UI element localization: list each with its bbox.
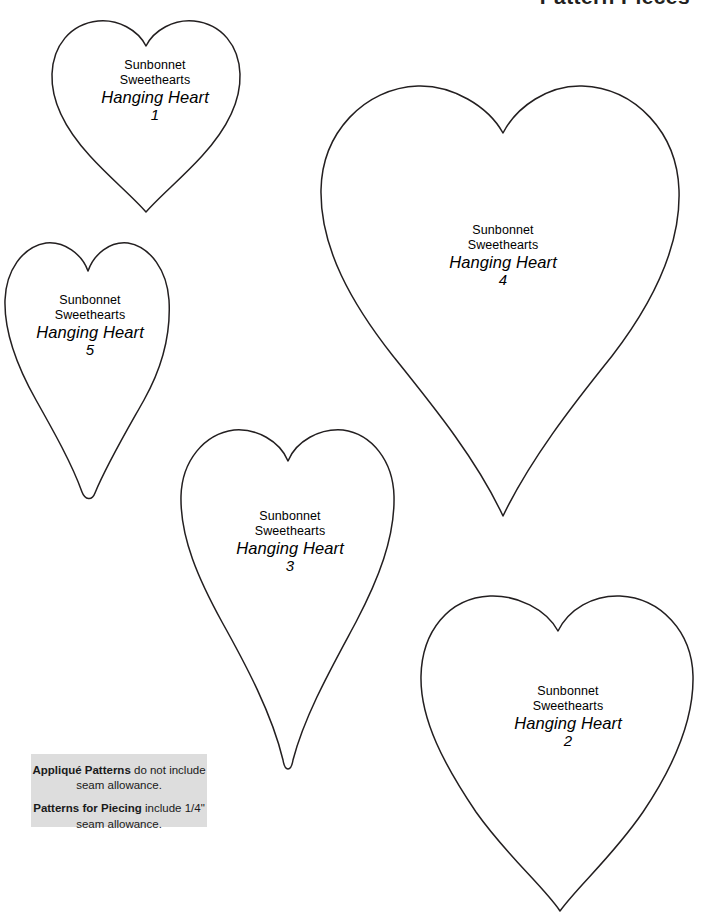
piece-brand-line-2: Sweethearts [236,524,344,539]
note-line-2-bold: Patterns for Piecing [33,802,142,814]
heart-outline-3 [181,430,394,769]
piece-name: Hanging Heart [101,88,209,107]
piece-brand-line-1: Sunbonnet [449,223,557,238]
piece-name: Hanging Heart [36,323,144,342]
heart-outline-4 [321,86,679,516]
piece-brand-line-1: Sunbonnet [236,509,344,524]
piece-brand-line-2: Sweethearts [449,238,557,253]
piece-label-5: Sunbonnet Sweethearts Hanging Heart 5 [36,293,144,358]
piece-brand-line-1: Sunbonnet [101,58,209,73]
piece-label-3: Sunbonnet Sweethearts Hanging Heart 3 [236,509,344,574]
piece-name: Hanging Heart [514,714,622,733]
pattern-sheet-page: Pattern Pieces Sunbonnet Sweethearts Han… [0,0,714,919]
piece-brand-line-1: Sunbonnet [514,684,622,699]
piece-brand-line-2: Sweethearts [101,73,209,88]
piece-label-1: Sunbonnet Sweethearts Hanging Heart 1 [101,58,209,123]
heart-outline-5 [5,243,169,499]
note-line-appliqué: Appliqué Patterns do not include seam al… [31,763,207,793]
piece-number: 5 [36,341,144,358]
piece-number: 2 [514,732,622,749]
piece-number: 4 [449,271,557,288]
piece-label-4: Sunbonnet Sweethearts Hanging Heart 4 [449,223,557,288]
note-line-1-bold: Appliqué Patterns [32,764,130,776]
note-line-piecing: Patterns for Piecing include 1/4" seam a… [31,801,207,831]
piece-brand-line-2: Sweethearts [514,699,622,714]
piece-name: Hanging Heart [236,539,344,558]
piece-label-2: Sunbonnet Sweethearts Hanging Heart 2 [514,684,622,749]
piece-number: 3 [236,557,344,574]
piece-brand-line-1: Sunbonnet [36,293,144,308]
piece-number: 1 [101,106,209,123]
heart-outline-2 [421,596,693,911]
piece-brand-line-2: Sweethearts [36,308,144,323]
piece-name: Hanging Heart [449,253,557,272]
seam-allowance-note-box: Appliqué Patterns do not include seam al… [31,754,207,827]
